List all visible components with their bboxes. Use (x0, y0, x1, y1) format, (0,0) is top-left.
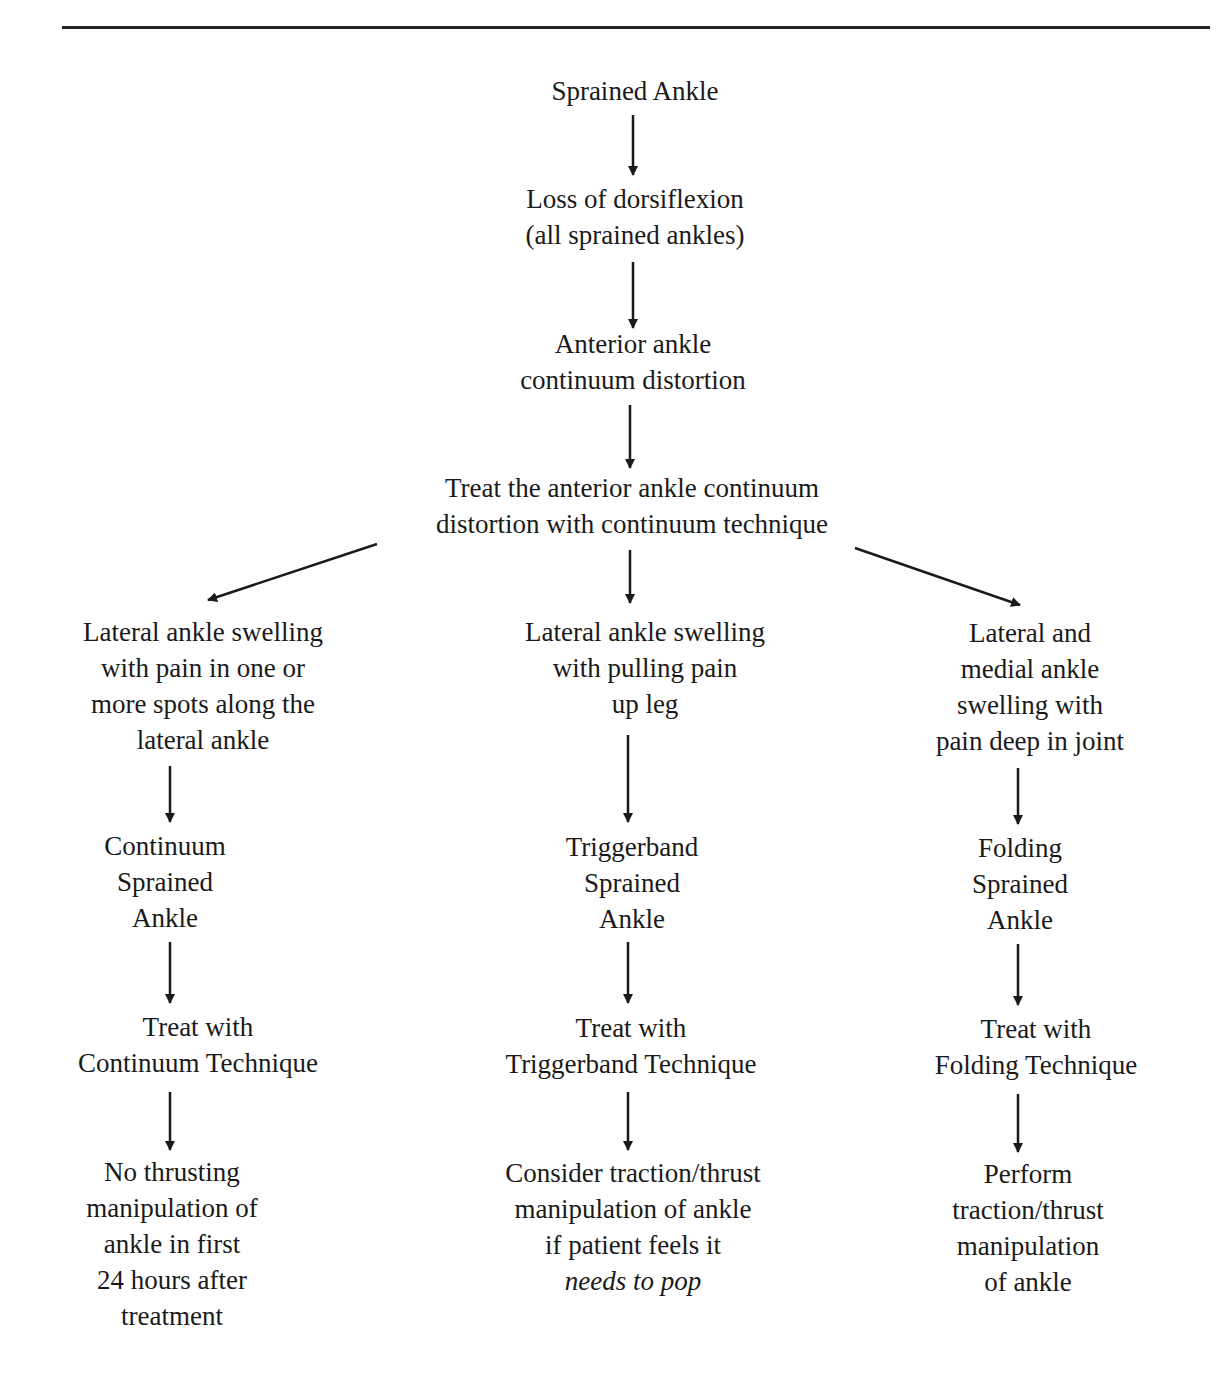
node-text: manipulation of (86, 1190, 258, 1226)
node-text: Treat with (506, 1010, 757, 1046)
node-continuum-treatment: Treat with Continuum Technique (78, 1009, 318, 1081)
arrow-down-right-icon (855, 548, 1020, 605)
node-treat-anterior-continuum: Treat the anterior ankle continuum disto… (436, 470, 828, 542)
node-text-emphasis: needs to pop (505, 1263, 761, 1299)
node-text: 24 hours after (86, 1262, 258, 1298)
node-text: ankle in first (86, 1226, 258, 1262)
node-text: if patient feels it (505, 1227, 761, 1263)
node-triggerband-treatment: Treat with Triggerband Technique (506, 1010, 757, 1082)
node-text: Triggerband Technique (506, 1046, 757, 1082)
node-text: Sprained (972, 866, 1068, 902)
node-text: Sprained Ankle (551, 73, 718, 109)
node-text: Triggerband (566, 829, 699, 865)
node-triggerband-diagnosis: Triggerband Sprained Ankle (566, 829, 699, 937)
node-text: Lateral ankle swelling (525, 614, 765, 650)
node-text: Anterior ankle (520, 326, 746, 362)
node-folding-diagnosis: Folding Sprained Ankle (972, 830, 1068, 938)
node-text: medial ankle (936, 651, 1124, 687)
node-text: Sprained (104, 864, 226, 900)
node-text: manipulation of ankle (505, 1191, 761, 1227)
node-continuum-outcome: No thrusting manipulation of ankle in fi… (86, 1154, 258, 1334)
node-triggerband-symptom: Lateral ankle swelling with pulling pain… (525, 614, 765, 722)
node-text: more spots along the (83, 686, 323, 722)
node-text: swelling with (936, 687, 1124, 723)
node-continuum-diagnosis: Continuum Sprained Ankle (104, 828, 226, 936)
node-text: Folding (972, 830, 1068, 866)
node-text: Sprained (566, 865, 699, 901)
node-triggerband-outcome: Consider traction/thrust manipulation of… (505, 1155, 761, 1299)
node-text: (all sprained ankles) (526, 217, 745, 253)
node-sprained-ankle: Sprained Ankle (551, 73, 718, 109)
node-text: Folding Technique (935, 1047, 1137, 1083)
node-text: Ankle (566, 901, 699, 937)
node-text: with pain in one or (83, 650, 323, 686)
node-text: continuum distortion (520, 362, 746, 398)
node-text: pain deep in joint (936, 723, 1124, 759)
node-text: Ankle (104, 900, 226, 936)
node-text: up leg (525, 686, 765, 722)
node-text: Consider traction/thrust (505, 1155, 761, 1191)
node-text: Lateral ankle swelling (83, 614, 323, 650)
arrow-down-left-icon (208, 544, 377, 600)
node-anterior-ankle-continuum-distortion: Anterior ankle continuum distortion (520, 326, 746, 398)
node-text: No thrusting (86, 1154, 258, 1190)
node-folding-treatment: Treat with Folding Technique (935, 1011, 1137, 1083)
node-text: Treat with (78, 1009, 318, 1045)
node-text: traction/thrust (952, 1192, 1103, 1228)
node-text: Ankle (972, 902, 1068, 938)
node-text: treatment (86, 1298, 258, 1334)
node-text: Continuum (104, 828, 226, 864)
node-text: Lateral and (936, 615, 1124, 651)
node-text: Perform (952, 1156, 1103, 1192)
node-folding-outcome: Perform traction/thrust manipulation of … (952, 1156, 1103, 1300)
node-text: Loss of dorsiflexion (526, 181, 745, 217)
node-text: manipulation (952, 1228, 1103, 1264)
node-text: Treat with (935, 1011, 1137, 1047)
node-loss-of-dorsiflexion: Loss of dorsiflexion (all sprained ankle… (526, 181, 745, 253)
node-text: Continuum Technique (78, 1045, 318, 1081)
node-text: distortion with continuum technique (436, 506, 828, 542)
node-text: Treat the anterior ankle continuum (436, 470, 828, 506)
node-text: lateral ankle (83, 722, 323, 758)
node-continuum-symptom: Lateral ankle swelling with pain in one … (83, 614, 323, 758)
node-text: with pulling pain (525, 650, 765, 686)
node-folding-symptom: Lateral and medial ankle swelling with p… (936, 615, 1124, 759)
node-text: of ankle (952, 1264, 1103, 1300)
